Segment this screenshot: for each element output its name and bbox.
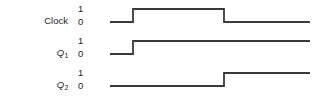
waveform-clock [110, 9, 310, 22]
waveform-q1 [110, 41, 310, 54]
waveform-q2 [110, 73, 310, 86]
waveform-traces [0, 0, 316, 98]
timing-diagram: Clock Q1 Q2 1 0 1 0 1 0 [0, 0, 316, 98]
